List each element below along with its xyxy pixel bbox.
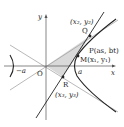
x-axis-arrow [112, 65, 116, 68]
point-R-label: R [63, 81, 69, 89]
neg-a-label: −a [16, 67, 26, 75]
point-Q-coords: (x₂, y₂) [70, 18, 94, 26]
point-R-coords: (x₃, y₃) [55, 91, 79, 99]
pos-a-label: a [78, 68, 82, 76]
x-axis-label: x [111, 69, 115, 77]
point-M [77, 55, 80, 58]
point-Q-label: Q [82, 27, 88, 35]
point-M-label: M(x₁, y₁) [80, 56, 111, 64]
point-Q [89, 35, 92, 38]
hyperbola-diagram: y x O −a a (x₂, y₂) Q P(as, bt) M(x₁, y₁… [0, 0, 124, 127]
origin-label: O [37, 70, 43, 78]
y-axis-arrow [45, 14, 48, 18]
point-P-label: P(as, bt) [89, 47, 119, 55]
y-axis-label: y [37, 13, 43, 21]
point-R [62, 76, 65, 79]
